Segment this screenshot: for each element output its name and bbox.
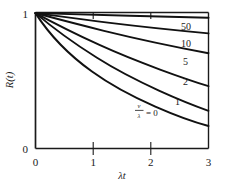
curve-label-1: 1 (175, 96, 180, 107)
chart-svg: 50 10 5 2 1 v λ = 0 1 0 0 1 2 3 λt R(t) (0, 0, 226, 182)
curve-label-2: 2 (183, 76, 188, 87)
curve-label-0-annotation: v λ = 0 (135, 102, 158, 119)
y-tick-label-1: 1 (23, 8, 29, 20)
y-tick-label-0: 0 (23, 143, 29, 155)
curve-label-5: 5 (183, 56, 188, 67)
fraction-denominator-lambda: λ (137, 112, 141, 119)
x-tick-label-1: 1 (90, 156, 96, 168)
fraction-equals-zero: = 0 (146, 108, 158, 118)
chart-figure: 50 10 5 2 1 v λ = 0 1 0 0 1 2 3 λt R(t) (0, 0, 226, 182)
x-tick-label-3: 3 (206, 156, 212, 168)
x-axis-title: λt (117, 170, 127, 181)
curve-label-50: 50 (181, 21, 191, 32)
curve-label-10: 10 (181, 38, 191, 49)
y-axis-title: R(t) (4, 71, 16, 89)
fraction-numerator-v: v (138, 102, 141, 109)
x-tick-label-0: 0 (33, 156, 39, 168)
x-tick-label-2: 2 (148, 156, 154, 168)
